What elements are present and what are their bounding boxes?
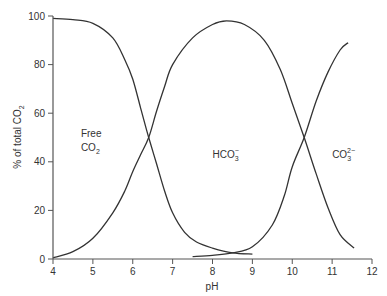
y-tick-label: 0 [39, 254, 45, 265]
co3-label: CO32− [332, 147, 355, 162]
x-tick-label: 9 [250, 266, 256, 277]
annotations: FreeCO2HCO3−CO32− [81, 128, 355, 162]
x-tick-label: 5 [90, 266, 96, 277]
x-tick-label: 6 [130, 266, 136, 277]
chart: 456789101112020406080100 FreeCO2HCO3−CO3… [0, 0, 387, 296]
y-tick-label: 40 [34, 156, 46, 167]
x-tick-label: 8 [210, 266, 216, 277]
y-tick-label: 100 [28, 11, 45, 22]
x-tick-label: 11 [327, 266, 338, 277]
y-tick-label: 80 [34, 59, 46, 70]
x-tick-label: 7 [170, 266, 176, 277]
y-axis-label: % of total CO2 [12, 105, 25, 168]
x-tick-label: 12 [366, 266, 378, 277]
x-tick-label: 10 [287, 266, 299, 277]
free-co2-label: Free [81, 128, 102, 139]
series-hco3--line [53, 21, 354, 258]
free-co2-formula: CO2 [81, 142, 100, 155]
x-axis-label: pH [206, 281, 219, 292]
y-tick-label: 20 [34, 205, 46, 216]
x-tick-label: 4 [50, 266, 56, 277]
hco3-label: HCO3− [213, 147, 239, 162]
y-tick-label: 60 [34, 108, 46, 119]
